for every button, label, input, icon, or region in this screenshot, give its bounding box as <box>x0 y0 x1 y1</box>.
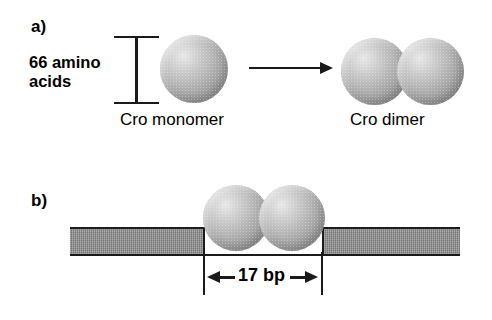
footprint-arrow-shaft-right <box>290 276 306 279</box>
cro-protein-dimerization-figure: a) 66 amino acids Cro monomer Cro dimer … <box>0 0 492 320</box>
reaction-arrow-head <box>320 62 333 74</box>
cro-monomer-caption: Cro monomer <box>120 111 224 129</box>
footprint-length-label: 17 bp <box>238 266 285 285</box>
dna-segment-left <box>70 227 205 256</box>
bound-cro-dimer-subunit-right <box>259 185 325 251</box>
cro-dimer-subunit-right <box>397 38 464 105</box>
dna-segment-right <box>322 227 460 256</box>
footprint-tick-right <box>321 252 323 295</box>
amino-acid-count-label-line2: acids <box>29 73 71 91</box>
cro-monomer-sphere <box>160 35 228 103</box>
panel-a-letter: a) <box>31 18 46 36</box>
footprint-tick-left <box>203 252 205 295</box>
panel-b-letter: b) <box>31 192 47 210</box>
cro-dimer-caption: Cro dimer <box>350 111 425 129</box>
size-bracket-stem <box>135 36 138 104</box>
footprint-arrow-head-right <box>305 271 318 283</box>
size-bracket-bottom-cap <box>114 102 159 104</box>
footprint-arrow-shaft-left <box>219 276 235 279</box>
amino-acid-count-label-line1: 66 amino <box>29 54 101 72</box>
reaction-arrow-shaft <box>249 67 321 69</box>
